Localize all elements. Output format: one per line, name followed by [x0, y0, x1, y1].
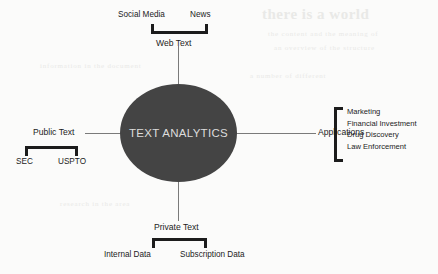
connector-top — [178, 46, 179, 86]
ghost-line-artifact: an overview of the structure — [274, 44, 375, 52]
branch-label-public-text[interactable]: Public Text — [33, 127, 74, 137]
ghost-line-artifact: a number of different — [250, 72, 326, 80]
applications-list: Marketing Financial Investment Drug Disc… — [347, 106, 417, 152]
connector-right — [232, 133, 316, 134]
list-item[interactable]: Drug Discovery — [347, 129, 417, 141]
connector-bottom — [178, 180, 179, 221]
leaf-label-subscription-data[interactable]: Subscription Data — [180, 250, 245, 259]
leaf-label-news[interactable]: News — [190, 10, 210, 19]
ghost-line-artifact: the content and the meaning of — [268, 30, 379, 38]
leaf-label-internal-data[interactable]: Internal Data — [104, 250, 151, 259]
branch-label-web-text[interactable]: Web Text — [156, 38, 192, 48]
ghost-line-artifact: research in the area — [60, 200, 130, 208]
leaf-label-sec[interactable]: SEC — [16, 157, 33, 166]
list-item[interactable]: Financial Investment — [347, 118, 417, 130]
hub-label: TEXT ANALYTICS — [129, 127, 228, 139]
ghost-line-artifact: information in the document — [40, 62, 142, 70]
bracket-private-text — [152, 238, 207, 248]
bracket-web-text — [151, 24, 208, 34]
ghost-heading-artifact: there is a world — [262, 6, 369, 23]
diagram-canvas: there is a world the content and the mea… — [0, 0, 438, 274]
connector-left — [85, 133, 125, 134]
leaf-label-social-media[interactable]: Social Media — [118, 10, 165, 19]
list-item[interactable]: Marketing — [347, 106, 417, 118]
bracket-public-text — [25, 146, 78, 156]
branch-label-private-text[interactable]: Private Text — [154, 222, 199, 232]
list-item[interactable]: Law Enforcement — [347, 141, 417, 153]
leaf-label-uspto[interactable]: USPTO — [58, 157, 86, 166]
hub-node[interactable]: TEXT ANALYTICS — [120, 84, 237, 182]
